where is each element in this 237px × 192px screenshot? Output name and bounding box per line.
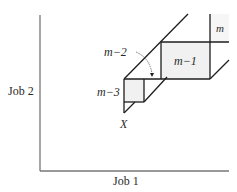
lower-right-diagonal — [210, 60, 229, 79]
middle-diagonal — [144, 77, 167, 102]
m-2-leader-arrow — [136, 52, 152, 74]
region-m-label: m — [216, 22, 224, 34]
arrow-head-icon — [150, 73, 154, 77]
region-m-3-label: m−3 — [97, 85, 120, 99]
region-m-2-label: m−2 — [104, 45, 127, 59]
region-m-1-label: m−1 — [174, 54, 197, 68]
start-diagonal — [124, 102, 135, 113]
region-m-3-fill — [124, 79, 144, 102]
start-point-label: X — [119, 117, 128, 131]
y-axis-label: Job 2 — [8, 84, 34, 98]
job-shop-diagram: Job 2 Job 1 m m−1 m−2 m−3 X — [0, 0, 237, 192]
x-axis-label: Job 1 — [113, 174, 139, 188]
